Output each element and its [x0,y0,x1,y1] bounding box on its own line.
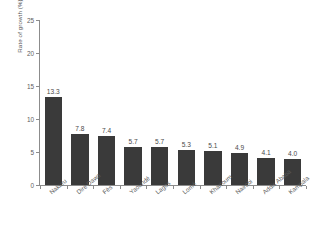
y-axis-tick-label: 15 [20,83,34,90]
x-axis-tick [93,186,94,189]
bar-value-label: 7.8 [67,125,93,133]
y-axis-tick-label: 0 [20,182,34,189]
x-axis-tick [306,186,307,189]
bar-value-label: 5.7 [120,138,146,146]
x-axis-tick [40,186,41,189]
y-axis-tick-label: 5 [20,149,34,156]
x-axis-tick [200,186,201,189]
x-axis-tick [67,186,68,189]
x-axis-tick [253,186,254,189]
plot-area: 13.37.87.45.75.75.35.14.94.14.0 [40,20,306,185]
bar-value-label: 7.4 [94,127,120,135]
bar[interactable] [71,134,89,185]
y-axis-title: Rate of growth (%) [14,0,26,72]
bar-value-label: 13.3 [41,88,67,96]
y-axis-tick-label: 25 [20,17,34,24]
bar-value-label: 5.7 [147,138,173,146]
x-axis-tick [120,186,121,189]
bar-value-label: 4.9 [227,144,253,152]
x-axis-tick [146,186,147,189]
bar-value-label: 4.1 [253,149,279,157]
bar-value-label: 5.3 [174,141,200,149]
x-axis-tick [226,186,227,189]
y-axis-tick-label: 20 [20,50,34,57]
y-axis-tick-label: 10 [20,116,34,123]
bar-chart: Rate of growth (%) 0510152025 13.37.87.4… [0,0,322,236]
x-axis-tick [279,186,280,189]
bar-value-label: 5.1 [200,142,226,150]
bar-value-label: 4.0 [280,150,306,158]
x-axis-tick [173,186,174,189]
bar[interactable] [45,97,63,185]
